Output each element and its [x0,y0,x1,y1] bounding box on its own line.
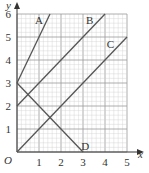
line-a [17,14,50,83]
y-tick-label: 1 [6,123,12,135]
y-axis-label: y [5,0,11,11]
line-label-b: B [86,14,93,26]
y-axis-arrow-icon [14,2,20,9]
line-graph: 12345123456 ABCD x y O [0,0,149,173]
y-tick-label: 4 [6,54,12,66]
y-tick-label: 3 [6,77,12,89]
line-c [17,37,127,152]
line-label-c: C [107,38,114,50]
x-tick-label: 3 [80,156,86,168]
y-tick-label: 2 [6,100,12,112]
x-tick-label: 2 [58,156,64,168]
line-label-a: A [35,14,43,26]
grid [17,14,127,152]
y-tick-label: 5 [6,31,12,43]
line-label-d: D [81,140,89,152]
x-tick-label: 1 [36,156,42,168]
x-tick-label: 4 [102,156,108,168]
x-axis-label: x [137,148,143,160]
x-tick-label: 5 [124,156,130,168]
origin-label: O [4,154,12,166]
